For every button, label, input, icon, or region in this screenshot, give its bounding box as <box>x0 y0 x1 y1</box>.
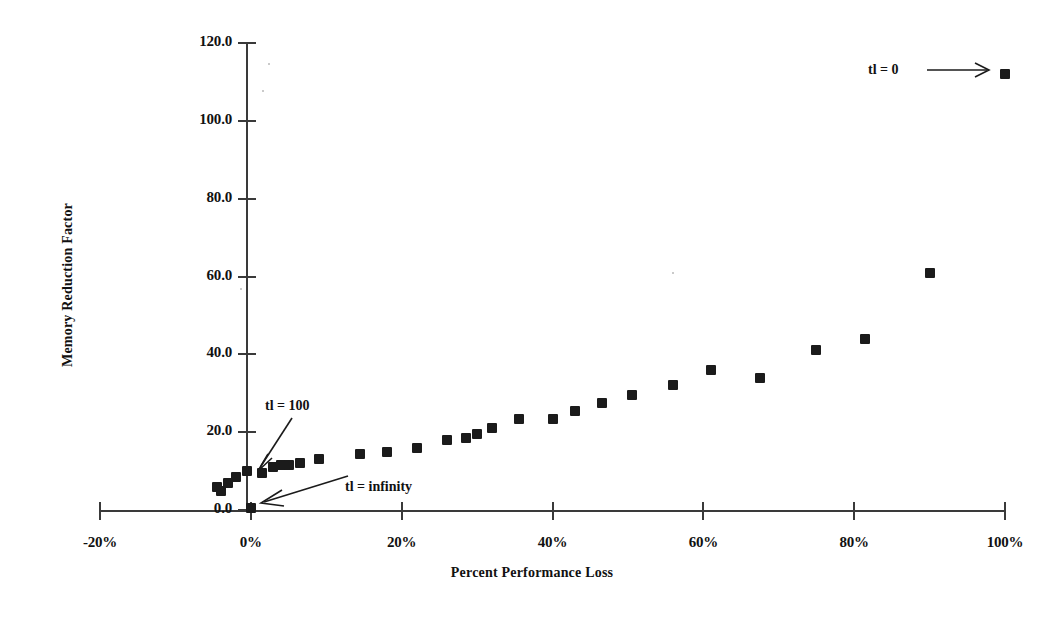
y-axis-tick <box>238 42 256 44</box>
annotation-tl-zero-label: tl = 0 <box>868 62 899 78</box>
y-axis-title: Memory Reduction Factor <box>60 155 76 415</box>
x-axis-tick <box>99 502 101 520</box>
x-axis-tick <box>853 502 855 520</box>
data-point-marker <box>548 414 558 424</box>
data-point-marker <box>570 406 580 416</box>
x-axis-tick-label: 40% <box>518 534 588 551</box>
y-axis-tick-label: 20.0 <box>168 422 232 439</box>
y-axis-tick-label: 80.0 <box>168 189 232 206</box>
annotation-tl-hundred-label: tl = 100 <box>265 398 310 414</box>
data-point-marker <box>382 447 392 457</box>
x-axis-tick-label: 100% <box>970 534 1040 551</box>
y-axis-tick <box>238 120 256 122</box>
data-point-marker <box>514 414 524 424</box>
scan-speck <box>262 90 264 92</box>
x-axis-tick <box>401 502 403 520</box>
x-axis-title: Percent Performance Loss <box>0 565 1064 581</box>
annotation-tl-infinity-arrow <box>256 470 352 512</box>
data-point-marker <box>706 365 716 375</box>
x-axis-tick <box>1004 502 1006 520</box>
x-axis-tick-label: 80% <box>819 534 889 551</box>
data-point-marker <box>668 380 678 390</box>
scan-speck <box>268 63 270 65</box>
y-axis-tick <box>238 276 256 278</box>
x-axis-tick-label: 20% <box>367 534 437 551</box>
data-point-marker <box>755 373 765 383</box>
x-axis-tick <box>552 502 554 520</box>
data-point-marker <box>597 398 607 408</box>
data-point-marker <box>925 268 935 278</box>
data-point-marker <box>472 429 482 439</box>
annotation-tl-zero-arrow <box>925 55 1005 85</box>
data-point-marker <box>412 443 422 453</box>
data-point-marker <box>355 449 365 459</box>
annotation-tl-infinity-label: tl = infinity <box>345 479 412 495</box>
chart-figure: Memory Reduction Factor Percent Performa… <box>0 0 1064 620</box>
x-axis-tick <box>702 502 704 520</box>
y-axis-tick <box>238 198 256 200</box>
data-point-marker <box>860 334 870 344</box>
data-point-marker <box>246 503 256 513</box>
data-point-marker <box>487 423 497 433</box>
x-axis-tick-label: 0% <box>216 534 286 551</box>
data-point-marker <box>627 390 637 400</box>
data-point-marker <box>231 472 241 482</box>
y-axis-tick-label: 120.0 <box>168 33 232 50</box>
annotation-tl-hundred-arrow <box>248 414 304 476</box>
y-axis-tick-label: 0.0 <box>168 500 232 517</box>
scan-speck <box>672 272 674 274</box>
data-point-marker <box>314 454 324 464</box>
x-axis-tick-label: 60% <box>668 534 738 551</box>
y-axis-tick-label: 40.0 <box>168 344 232 361</box>
data-point-marker <box>442 435 452 445</box>
y-axis-tick <box>238 353 256 355</box>
x-axis-tick-label: -20% <box>65 534 135 551</box>
scan-speck <box>240 288 242 290</box>
y-axis-tick-label: 100.0 <box>168 111 232 128</box>
y-axis-tick-label: 60.0 <box>168 267 232 284</box>
data-point-marker <box>461 433 471 443</box>
data-point-marker <box>811 345 821 355</box>
